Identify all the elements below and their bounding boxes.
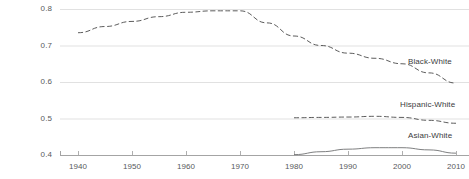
series-line-black-white: [78, 11, 456, 83]
y-tick-label: 0.5: [16, 114, 52, 123]
x-tick-label: 2010: [436, 162, 469, 171]
series-label-hispanic-white: Hispanic-White: [400, 100, 455, 109]
series-line-asian-white: [294, 148, 456, 155]
series-label-black-white: Black-White: [408, 57, 452, 66]
x-tick-label: 1970: [220, 162, 260, 171]
x-tick-label: 1980: [274, 162, 314, 171]
x-tick-label: 1960: [166, 162, 206, 171]
y-tick-label: 0.8: [16, 4, 52, 13]
x-tick-label: 1950: [112, 162, 152, 171]
line-chart-plot: [0, 0, 469, 179]
x-tick-group: [79, 151, 457, 155]
x-tick-label: 2000: [382, 162, 422, 171]
x-tick-label: 1940: [58, 162, 98, 171]
y-tick-label: 0.4: [16, 150, 52, 159]
series-line-hispanic-white: [294, 116, 456, 123]
x-tick-label: 1990: [328, 162, 368, 171]
chart-container: 0.40.50.60.70.8 194019501960197019801990…: [0, 0, 469, 179]
y-tick-label: 0.6: [16, 77, 52, 86]
y-tick-label: 0.7: [16, 41, 52, 50]
series-label-asian-white: Asian-White: [408, 131, 452, 140]
